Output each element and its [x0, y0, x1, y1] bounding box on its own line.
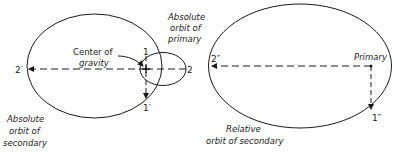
relative-orbit-label-line1: Relative — [226, 124, 261, 134]
abs-primary-label-line1: Absolute — [167, 12, 205, 22]
point-1-prime-label: 1′ — [143, 103, 151, 113]
primary-label: Primary — [354, 52, 388, 62]
center-of-gravity-marker — [142, 65, 150, 73]
point-2-prime-label: 2′ — [15, 65, 23, 75]
abs-primary-label-line2: orbit of — [170, 23, 203, 33]
relative-orbit-label-line2: orbit of secondary — [206, 136, 284, 146]
orbit-diagram: Center of gravity Absolute orbit of prim… — [0, 0, 394, 152]
point-2-double-prime-label: 2″ — [211, 54, 221, 64]
abs-secondary-label-line3: secondary — [3, 138, 48, 148]
point-1-double-prime-label: 1″ — [372, 113, 382, 123]
center-of-gravity-pointer — [118, 56, 143, 66]
abs-primary-label-line3: primary — [167, 34, 202, 44]
abs-secondary-label-line2: orbit of — [9, 126, 42, 136]
point-1-label: 1 — [143, 47, 149, 57]
center-of-gravity-label-line1: Center of — [73, 47, 114, 57]
left-figure: Center of gravity Absolute orbit of prim… — [3, 12, 205, 148]
primary-point — [370, 65, 373, 68]
abs-secondary-label-line1: Absolute — [6, 114, 44, 124]
point-2-label: 2 — [187, 65, 193, 75]
right-figure: Primary 2″ 1″ Relative orbit of secondar… — [206, 4, 392, 146]
center-of-gravity-label-line2: gravity — [79, 58, 110, 68]
